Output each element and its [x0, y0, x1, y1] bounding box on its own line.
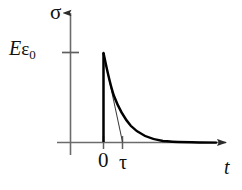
- relaxation-time-label: τ: [119, 152, 127, 172]
- epsilon-symbol: ε: [21, 38, 29, 59]
- x-axis-label-time: t: [224, 157, 230, 177]
- y-axis-label-sigma: σ: [50, 2, 61, 23]
- modulus-symbol: E: [9, 37, 21, 59]
- stress-relaxation-figure: σ Eε0 0 τ t: [0, 0, 242, 190]
- stress-level-label: Eε0: [9, 38, 36, 61]
- origin-label: 0: [98, 150, 109, 171]
- epsilon-subscript: 0: [29, 47, 36, 62]
- stress-relaxation-curve: [104, 53, 217, 143]
